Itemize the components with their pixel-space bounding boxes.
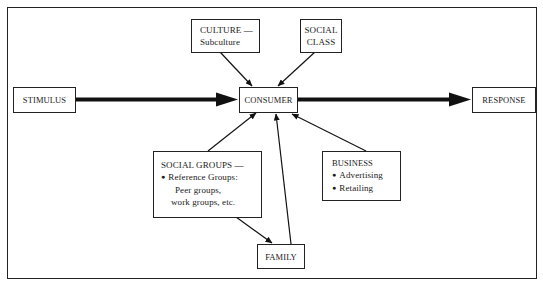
arrow-business-to-consumer bbox=[292, 114, 366, 151]
node-social-class-line2: CLASS bbox=[301, 36, 341, 48]
node-culture-line1: CULTURE — bbox=[200, 24, 259, 36]
node-social-groups: SOCIAL GROUPS — Reference Groups: Peer g… bbox=[153, 151, 262, 218]
node-family-label: FAMILY bbox=[265, 251, 297, 263]
node-consumer-label: CONSUMER bbox=[244, 94, 292, 106]
arrow-social-groups-to-consumer bbox=[208, 113, 256, 151]
node-consumer: CONSUMER bbox=[239, 87, 298, 113]
node-response: RESPONSE bbox=[472, 87, 536, 113]
node-business-bullet-advertising: Advertising bbox=[332, 169, 400, 182]
node-social-class: SOCIAL CLASS bbox=[300, 19, 342, 53]
arrow-social-groups-to-family bbox=[236, 217, 272, 243]
arrow-culture-to-consumer bbox=[220, 52, 252, 86]
node-business-title: BUSINESS bbox=[332, 157, 400, 169]
node-social-groups-sub-peer: Peer groups, bbox=[161, 184, 261, 196]
node-culture: CULTURE — Subculture bbox=[191, 19, 260, 53]
node-family: FAMILY bbox=[257, 244, 305, 269]
arrow-social-class-to-consumer bbox=[278, 52, 315, 86]
node-stimulus: STIMULUS bbox=[13, 87, 76, 113]
node-business: BUSINESS Advertising Retailing bbox=[322, 151, 401, 201]
node-social-class-line1: SOCIAL bbox=[301, 24, 341, 36]
arrow-consumer-to-response bbox=[297, 93, 471, 107]
node-social-groups-bullet-reference: Reference Groups: bbox=[161, 171, 261, 184]
node-stimulus-label: STIMULUS bbox=[23, 94, 66, 106]
node-social-groups-sub-work: work groups, etc. bbox=[161, 196, 261, 208]
node-social-groups-title: SOCIAL GROUPS — bbox=[161, 159, 261, 171]
node-business-bullet-retailing: Retailing bbox=[332, 182, 400, 195]
arrow-family-to-consumer bbox=[276, 114, 291, 244]
node-response-label: RESPONSE bbox=[482, 94, 525, 106]
arrow-stimulus-to-consumer bbox=[75, 93, 238, 107]
node-culture-line2: Subculture bbox=[200, 36, 259, 48]
